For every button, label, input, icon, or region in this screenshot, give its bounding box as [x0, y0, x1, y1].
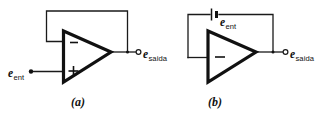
output-label-b: esaida: [290, 45, 314, 61]
output-junction-dot-b: [272, 51, 275, 54]
input-terminal-a: [29, 69, 33, 73]
output-terminal-a: [136, 50, 141, 55]
panel-a-circuit: [29, 11, 141, 82]
input-label-a: eent: [8, 64, 24, 80]
output-label-a: esaida: [143, 45, 167, 61]
caption-b: (b): [208, 95, 222, 110]
panel-b-circuit: [188, 9, 288, 83]
op-amp-triangle-a: [64, 31, 112, 82]
circuit-figure: eent esaida eent esaida (a) (b): [0, 0, 327, 116]
output-junction-dot-a: [126, 51, 129, 54]
output-label-subscript-b: saida: [295, 54, 314, 63]
battery-symbol-b: [212, 9, 217, 21]
source-label-b: eent: [220, 13, 236, 29]
source-label-subscript-b: ent: [225, 22, 236, 31]
input-label-subscript-a: ent: [13, 73, 24, 82]
output-terminal-b: [283, 50, 288, 55]
caption-a: (a): [71, 95, 85, 110]
output-label-subscript-a: saida: [148, 54, 167, 63]
